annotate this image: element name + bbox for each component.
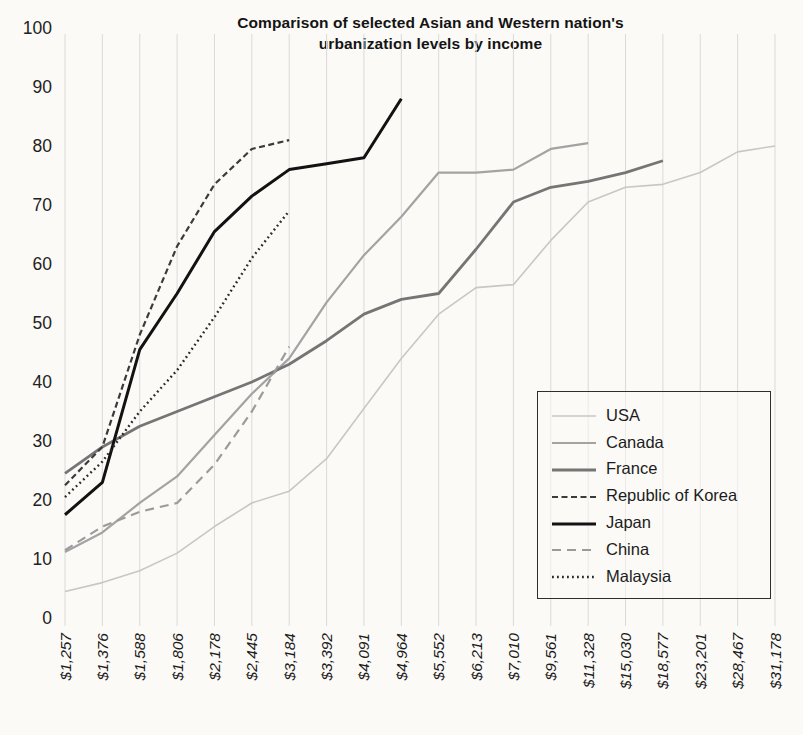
x-tick-label: $18,577 bbox=[654, 632, 671, 690]
y-tick-label: 10 bbox=[33, 549, 53, 569]
y-tick-label: 100 bbox=[23, 18, 52, 38]
legend-line-sample-malaysia bbox=[551, 567, 597, 585]
legend-label-usa: USA bbox=[606, 406, 640, 425]
x-tick-label: $5,552 bbox=[430, 633, 447, 682]
x-tick-label: $3,184 bbox=[281, 633, 298, 682]
x-tick-label: $4,964 bbox=[393, 633, 410, 682]
x-tick-label: $6,213 bbox=[468, 633, 485, 682]
legend-item-canada: Canada bbox=[551, 429, 770, 456]
y-tick-label: 30 bbox=[33, 431, 53, 451]
x-tick-label: $2,445 bbox=[243, 633, 260, 682]
x-tick-label: $3,392 bbox=[318, 633, 335, 682]
y-tick-label: 20 bbox=[33, 490, 53, 510]
legend-item-china: China bbox=[551, 536, 770, 563]
x-tick-label: $31,178 bbox=[767, 633, 784, 690]
x-tick-label: $1,376 bbox=[94, 633, 111, 682]
y-tick-label: 70 bbox=[33, 195, 53, 215]
x-axis-labels: $1,257$1,376$1,588$1,806$2,178$2,445$3,1… bbox=[57, 632, 784, 690]
x-tick-label: $11,328 bbox=[580, 633, 597, 689]
legend-line-sample-china bbox=[551, 540, 597, 558]
legend-line-sample-usa bbox=[551, 406, 597, 424]
urbanization-chart-figure: Comparison of selected Asian and Western… bbox=[0, 0, 803, 735]
legend-item-malaysia: Malaysia bbox=[551, 563, 770, 590]
chart-legend: USACanadaFranceRepublic of KoreaJapanChi… bbox=[537, 391, 771, 599]
y-tick-label: 80 bbox=[33, 136, 53, 156]
x-tick-label: $15,030 bbox=[617, 633, 634, 690]
x-tick-label: $2,178 bbox=[206, 633, 223, 682]
legend-line-sample-japan bbox=[551, 514, 597, 532]
legend-item-usa: USA bbox=[551, 402, 770, 429]
legend-item-japan: Japan bbox=[551, 509, 770, 536]
legend-item-republic-of-korea: Republic of Korea bbox=[551, 482, 770, 509]
x-tick-label: $9,561 bbox=[542, 633, 559, 681]
y-axis-labels: 0102030405060708090100 bbox=[23, 18, 52, 628]
legend-label-canada: Canada bbox=[606, 433, 664, 452]
y-tick-label: 0 bbox=[42, 608, 52, 628]
legend-label-japan: Japan bbox=[606, 513, 651, 532]
legend-line-sample-france bbox=[551, 460, 597, 478]
legend-label-china: China bbox=[606, 540, 649, 559]
legend-line-sample-republic-of-korea bbox=[551, 487, 597, 505]
legend-label-republic-of-korea: Republic of Korea bbox=[606, 486, 737, 505]
x-tick-label: $28,467 bbox=[729, 632, 746, 690]
line-chart-canvas: 0102030405060708090100$1,257$1,376$1,588… bbox=[0, 0, 803, 735]
x-tick-label: $1,806 bbox=[169, 633, 186, 682]
x-tick-label: $7,010 bbox=[505, 633, 522, 682]
x-tick-label: $1,257 bbox=[57, 632, 74, 682]
legend-line-sample-canada bbox=[551, 433, 597, 451]
legend-item-france: France bbox=[551, 456, 770, 483]
x-tick-label: $23,201 bbox=[692, 633, 709, 690]
x-tick-label: $4,091 bbox=[355, 633, 372, 681]
x-tick-label: $1,588 bbox=[131, 633, 148, 682]
legend-label-france: France bbox=[606, 459, 657, 478]
y-tick-label: 50 bbox=[33, 313, 53, 333]
y-tick-label: 90 bbox=[33, 77, 53, 97]
y-tick-label: 40 bbox=[33, 372, 53, 392]
y-tick-label: 60 bbox=[33, 254, 53, 274]
line-japan bbox=[65, 99, 401, 515]
legend-label-malaysia: Malaysia bbox=[606, 567, 671, 586]
